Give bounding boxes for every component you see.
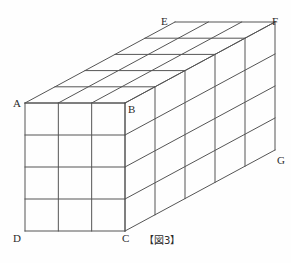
figure-caption: 【図3】 — [144, 236, 180, 246]
vertex-label-c: C — [122, 233, 130, 244]
right-face-depth-line — [125, 86, 275, 167]
vertex-label-a: A — [13, 98, 21, 109]
right-face-depth-line — [125, 118, 275, 199]
grid-line-group — [25, 22, 275, 231]
right-face-depth-line — [125, 54, 275, 135]
vertex-label-b: B — [128, 104, 136, 115]
right-face-depth-line — [125, 22, 275, 103]
right-face-depth-line — [125, 150, 275, 231]
vertex-label-e: E — [161, 16, 168, 27]
figure-container: ABCDEFG 【図3】 — [0, 0, 291, 263]
box-diagram — [0, 0, 291, 263]
top-face-depth-line — [25, 22, 175, 103]
vertex-label-g: G — [277, 155, 285, 166]
vertex-label-f: F — [272, 16, 278, 27]
top-face-depth-line — [92, 22, 242, 103]
top-face-depth-line — [58, 22, 208, 103]
vertex-label-d: D — [13, 233, 21, 244]
